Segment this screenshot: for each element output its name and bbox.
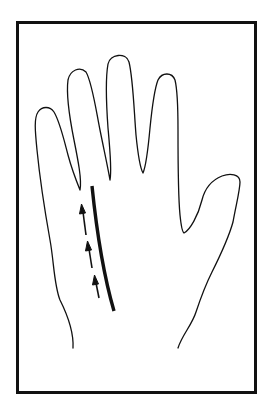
frame-border [18,23,256,393]
palm-diagram [0,0,268,410]
